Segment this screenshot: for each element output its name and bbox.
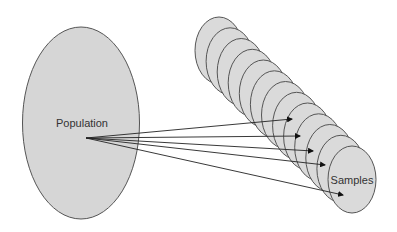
population-samples-diagram: Population Samples xyxy=(0,0,397,232)
samples-label: Samples xyxy=(331,174,374,186)
population-node: Population xyxy=(23,27,140,219)
population-label: Population xyxy=(56,117,108,129)
